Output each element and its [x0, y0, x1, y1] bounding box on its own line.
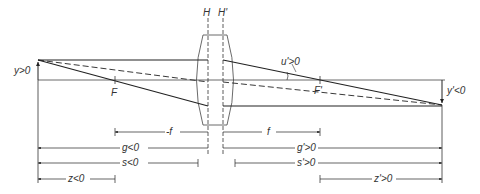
angle-arc [287, 72, 288, 80]
parallel-ray-refracted [223, 60, 442, 105]
label-angle: u'>0 [281, 56, 300, 67]
label-h-prime: H' [218, 7, 228, 18]
focal-ray [38, 60, 208, 106]
label-neg-f: -f [166, 126, 173, 137]
label-focal-f: F [111, 87, 118, 98]
label-s-prime: s'>0 [297, 157, 316, 168]
label-focal-f-prime: F' [314, 85, 323, 96]
label-f: f [267, 126, 271, 137]
label-z: z<0 [67, 173, 85, 184]
chief-ray-refracted [223, 82, 442, 105]
label-object: y>0 [13, 65, 31, 76]
label-image: y'<0 [446, 85, 466, 96]
label-h: H [203, 7, 211, 18]
chief-ray [38, 60, 208, 82]
label-g-prime: g'>0 [297, 142, 316, 153]
label-s: s<0 [122, 157, 139, 168]
optics-diagram: H H' y>0 y'<0 F F' u'>0 -f f g<0 g'>0 s<… [0, 0, 480, 194]
label-z-prime: z'>0 [373, 173, 393, 184]
label-g: g<0 [122, 142, 139, 153]
